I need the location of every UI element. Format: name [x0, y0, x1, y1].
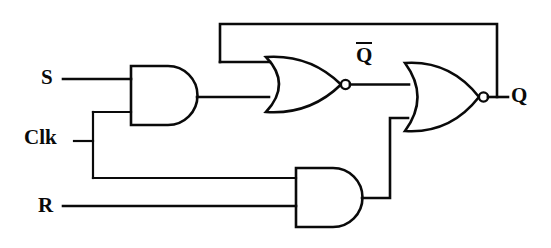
and-gate-bottom [296, 168, 363, 227]
label-q: Q [511, 85, 527, 106]
logic-diagram-canvas: S Clk R Q Q [0, 0, 551, 248]
nor-gate-bottom [405, 63, 479, 131]
q-bar-letter: Q [356, 43, 372, 67]
label-r: R [38, 195, 53, 216]
label-clk: Clk [24, 127, 57, 148]
label-s: S [41, 67, 53, 88]
circuit-schematic [0, 0, 551, 248]
wire-and-bottom-output [362, 118, 408, 198]
and-gate-top [131, 66, 197, 125]
nor-gate-top [266, 57, 341, 113]
label-q-bar: Q [356, 42, 372, 66]
